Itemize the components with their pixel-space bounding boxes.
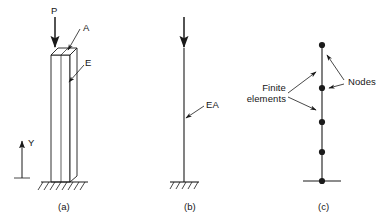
column-prism <box>51 48 77 182</box>
caption-panel-c: (c) <box>318 201 329 212</box>
figure-graphics <box>0 0 383 223</box>
node-5 <box>319 178 325 184</box>
node-1 <box>319 42 325 48</box>
fixed-support-a <box>38 182 88 190</box>
nodes-label: Nodes <box>348 76 376 87</box>
modulus-label-e: E <box>85 57 91 68</box>
leader-line-stiffness-ea <box>186 106 204 118</box>
node-2 <box>319 85 325 91</box>
axis-label-y: Y <box>28 137 34 148</box>
leader-lines-finite-elements <box>288 72 316 110</box>
finite-elements-label: Finite <box>238 82 286 93</box>
stiffness-label-ea: EA <box>206 99 219 110</box>
panel-a-group <box>14 17 88 190</box>
fixed-support-b <box>170 182 199 189</box>
leader-lines-nodes <box>327 55 344 88</box>
panel-c-group <box>288 42 344 184</box>
load-label-p: P <box>51 5 57 16</box>
caption-panel-a: (a) <box>58 201 70 212</box>
node-3 <box>319 119 325 125</box>
node-4 <box>319 149 325 155</box>
area-label-a: A <box>83 22 89 33</box>
panel-b-group <box>170 17 204 189</box>
finite-elements-label-line2: elements <box>238 93 286 104</box>
figure-container: P A E Y EA Finite elements Nodes (a) (b)… <box>0 0 383 223</box>
leader-line-area-a <box>68 29 80 50</box>
caption-panel-b: (b) <box>184 201 196 212</box>
